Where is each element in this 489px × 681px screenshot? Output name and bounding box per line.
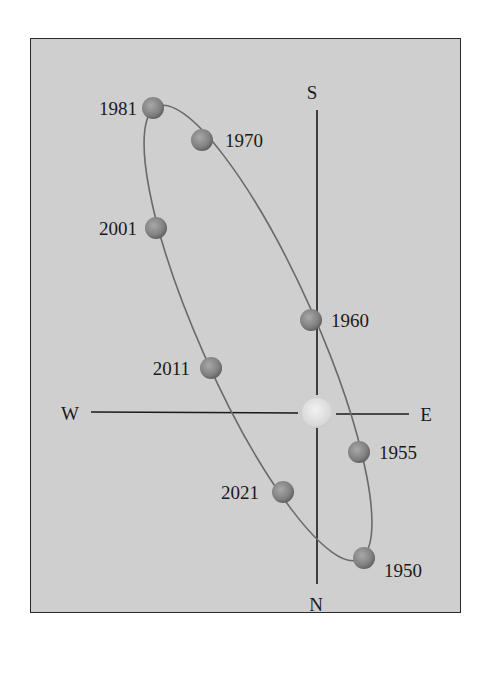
svg-text:2011: 2011: [153, 358, 190, 379]
planet-ball-icon: [191, 129, 213, 151]
label-north: N: [309, 594, 323, 615]
planet-ball-icon: [142, 97, 164, 119]
planet-ball-icon: [353, 547, 375, 569]
point-1970: 1970: [191, 129, 263, 151]
svg-text:1960: 1960: [331, 310, 369, 331]
point-2021: 2021: [221, 481, 294, 503]
planet-ball-icon: [200, 357, 222, 379]
label-east: E: [420, 404, 432, 425]
point-2011: 2011: [153, 357, 222, 379]
svg-text:2001: 2001: [99, 218, 137, 239]
point-2001: 2001: [99, 217, 167, 239]
orbit-diagram: S N W E 1981 1970 2001 1960 2011 1955 20…: [0, 0, 489, 681]
point-1955: 1955: [348, 441, 417, 463]
point-1950: 1950: [353, 547, 422, 581]
horizontal-axis: [91, 412, 409, 414]
svg-text:1981: 1981: [99, 98, 137, 119]
planet-ball-icon: [300, 309, 322, 331]
svg-text:1970: 1970: [225, 130, 263, 151]
planet-ball-icon: [272, 481, 294, 503]
point-1981: 1981: [99, 97, 164, 119]
svg-text:1955: 1955: [379, 442, 417, 463]
svg-text:1950: 1950: [384, 560, 422, 581]
svg-text:2021: 2021: [221, 482, 259, 503]
planet-ball-icon: [145, 217, 167, 239]
orbit-path: [104, 83, 412, 583]
label-south: S: [307, 82, 318, 103]
point-1960: 1960: [300, 309, 369, 331]
label-west: W: [61, 403, 79, 424]
planet-ball-icon: [348, 441, 370, 463]
sun-icon: [302, 398, 332, 428]
